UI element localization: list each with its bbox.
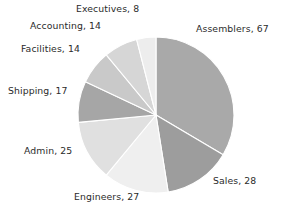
pie-label-engineers: Engineers, 27: [74, 192, 139, 201]
pie-chart: Assemblers, 67 Sales, 28 Engineers, 27 A…: [0, 0, 282, 212]
pie-label-executives: Executives, 8: [76, 4, 139, 13]
pie-label-admin: Admin, 25: [24, 146, 72, 155]
pie-label-sales: Sales, 28: [213, 176, 256, 185]
pie-slice-group: [78, 37, 234, 193]
pie-label-assemblers: Assemblers, 67: [196, 24, 269, 33]
pie-label-accounting: Accounting, 14: [30, 21, 101, 30]
pie-label-facilities: Facilities, 14: [21, 44, 80, 53]
pie-label-shipping: Shipping, 17: [8, 86, 68, 95]
